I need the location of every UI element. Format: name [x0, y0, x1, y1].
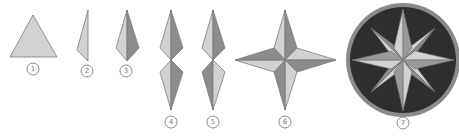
step-6-four-point-star	[235, 10, 336, 110]
step-label-7: 7	[397, 117, 410, 130]
compass-star-diagram: 1 2 3 4 5 6 7	[0, 0, 459, 139]
step-1-triangle	[10, 15, 57, 57]
step-4-double-kite	[160, 10, 183, 110]
step-label-5: 5	[207, 116, 220, 129]
step-label-4: 4	[165, 116, 178, 129]
diagram-canvas	[0, 0, 459, 139]
step-label-2: 2	[81, 65, 94, 78]
step-2-half-kite	[77, 10, 88, 61]
step-5-double-kite-flipped	[202, 10, 225, 110]
step-7-compass-star-circle	[346, 3, 459, 117]
step-label-3: 3	[120, 65, 133, 78]
step-3-kite	[116, 10, 139, 61]
step-label-6: 6	[279, 116, 292, 129]
step-label-1: 1	[27, 63, 40, 76]
